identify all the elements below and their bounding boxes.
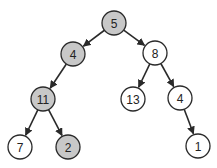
tree-node: 13 [121, 87, 145, 111]
tree-node: 4 [61, 42, 85, 66]
node-label: 1 [195, 140, 202, 154]
node-label: 4 [177, 92, 184, 106]
tree-node: 1 [186, 134, 210, 158]
node-label: 7 [17, 141, 24, 155]
tree-node: 4 [168, 86, 192, 110]
node-label: 13 [126, 93, 140, 107]
node-label: 2 [65, 141, 72, 155]
nodes-layer: 54811134721 [8, 11, 210, 159]
edge-arrow [139, 64, 150, 87]
tree-node: 2 [56, 135, 80, 159]
edge-arrow [161, 63, 174, 86]
tree-node: 8 [143, 41, 167, 65]
edge-arrow [83, 30, 104, 46]
edge-arrow [50, 64, 66, 88]
tree-node: 5 [102, 11, 126, 35]
tree-node: 11 [31, 87, 55, 111]
edges-layer [26, 30, 194, 135]
node-label: 5 [111, 17, 118, 31]
node-label: 4 [70, 48, 77, 62]
node-label: 11 [37, 93, 50, 107]
edge-arrow [26, 110, 38, 135]
edge-arrow [124, 30, 145, 45]
tree-node: 7 [8, 135, 32, 159]
edge-arrow [184, 109, 193, 134]
edge-arrow [49, 110, 62, 136]
node-label: 8 [152, 47, 159, 61]
tree-diagram: 54811134721 [0, 0, 217, 168]
